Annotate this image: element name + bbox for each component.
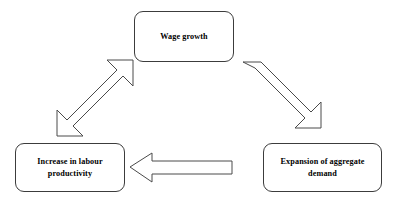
- arrow-productivity-wage-growth: [57, 60, 133, 136]
- arrow-aggregate-demand-productivity: [130, 153, 232, 182]
- node-labour-productivity-label: Increase in labour productivity: [37, 156, 102, 180]
- node-labour-productivity[interactable]: Increase in labour productivity: [15, 143, 125, 192]
- arrow-wage-growth-aggregate-demand: [243, 62, 321, 128]
- node-wage-growth-label: Wage growth: [160, 31, 208, 43]
- node-aggregate-demand[interactable]: Expansion of aggregate demand: [263, 143, 382, 192]
- node-wage-growth[interactable]: Wage growth: [134, 11, 234, 62]
- node-aggregate-demand-label: Expansion of aggregate demand: [281, 156, 365, 180]
- diagram-container: Wage growth Increase in labour productiv…: [0, 0, 396, 204]
